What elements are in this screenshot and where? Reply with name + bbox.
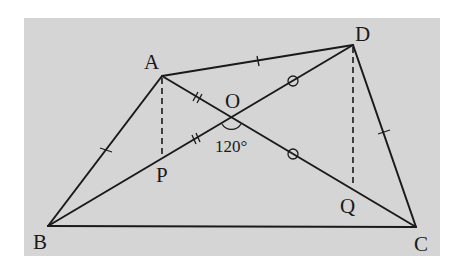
label-point-p: P — [156, 163, 168, 187]
geometry-diagram: A D O P Q B C 120° — [0, 0, 463, 271]
label-point-b: B — [33, 230, 47, 254]
label-point-a: A — [144, 50, 160, 74]
segment-bc — [48, 226, 416, 227]
label-point-c: C — [414, 232, 428, 256]
label-angle-120: 120° — [215, 137, 247, 156]
label-point-d: D — [355, 22, 370, 46]
label-point-o: O — [225, 89, 240, 113]
label-point-q: Q — [340, 194, 355, 218]
